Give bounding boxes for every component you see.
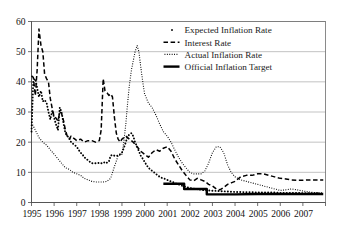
y-tick-label-40: 40 bbox=[16, 77, 26, 87]
x-tick-label-1997: 1997 bbox=[68, 209, 87, 219]
x-tick-label-1995: 1995 bbox=[23, 209, 42, 219]
y-tick-label-50: 50 bbox=[16, 47, 26, 57]
legend-label-interest-rate: Interest Rate bbox=[185, 38, 232, 48]
inflation-chart: 0102030405060 19951996199719981999200020… bbox=[0, 0, 345, 238]
x-tick-label-2000: 2000 bbox=[136, 209, 155, 219]
x-tick-label-1996: 1996 bbox=[45, 209, 64, 219]
chart-figure: 0102030405060 19951996199719981999200020… bbox=[0, 0, 345, 238]
legend-label-actual-inflation-rate: Actual Inflation Rate bbox=[185, 50, 263, 60]
legend-label-expected-inflation-rate: Expected Inflation Rate bbox=[185, 25, 272, 35]
y-tick-label-60: 60 bbox=[16, 17, 26, 27]
x-tick-label-1998: 1998 bbox=[90, 209, 109, 219]
y-tick-label-20: 20 bbox=[16, 138, 26, 148]
y-tick-label-0: 0 bbox=[21, 198, 26, 208]
x-tick-label-2001: 2001 bbox=[158, 209, 177, 219]
x-tick-label-2002: 2002 bbox=[181, 209, 200, 219]
x-tick-label-2004: 2004 bbox=[226, 209, 245, 219]
legend-label-official-inflation-target: Official Inflation Target bbox=[185, 62, 273, 72]
x-tick-label-2007: 2007 bbox=[294, 209, 313, 219]
legend-marker-dot-marker bbox=[171, 29, 173, 31]
x-tick-label-1999: 1999 bbox=[113, 209, 132, 219]
y-tick-label-30: 30 bbox=[16, 107, 26, 117]
x-tick-label-2005: 2005 bbox=[249, 209, 268, 219]
y-tick-label-10: 10 bbox=[16, 168, 26, 178]
x-tick-label-2003: 2003 bbox=[203, 209, 222, 219]
x-tick-label-2006: 2006 bbox=[271, 209, 290, 219]
